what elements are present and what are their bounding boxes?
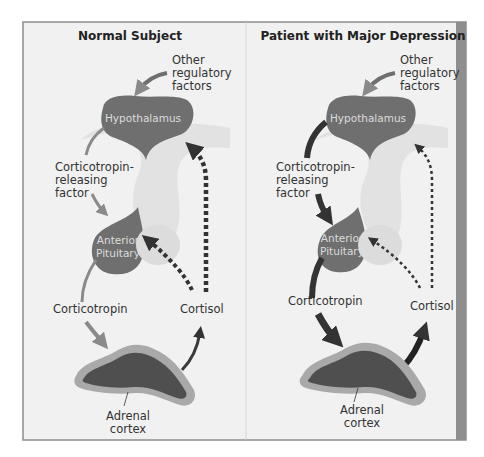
left-cortisol-label: Cortisol xyxy=(180,302,224,316)
left-hypothalamus-label: Hypothalamus xyxy=(105,112,181,124)
right-adrenal-label-1: Adrenal xyxy=(340,403,384,417)
right-crf-label-1: Corticotropin- xyxy=(276,160,355,174)
right-edge-strip xyxy=(456,22,466,440)
hpa-axis-diagram: Normal Subject Hypothalamus Anterior Pit… xyxy=(0,0,484,457)
right-crf-label-2: releasing xyxy=(276,173,329,187)
right-corticotropin-label: Corticotropin xyxy=(288,294,363,308)
left-other-factors-1: Other xyxy=(172,53,205,67)
right-pituitary-label-1: Anterior xyxy=(321,232,364,244)
right-panel-title: Patient with Major Depression xyxy=(260,29,465,43)
right-hypothalamus-label: Hypothalamus xyxy=(330,112,406,124)
right-cortisol-label: Cortisol xyxy=(410,299,454,313)
left-posterior-lobe xyxy=(136,225,180,265)
left-pituitary-label-1: Anterior xyxy=(97,234,140,246)
left-other-factors-3: factors xyxy=(172,79,212,93)
right-other-factors-1: Other xyxy=(400,53,433,67)
left-pituitary-label-2: Pituitary xyxy=(96,247,140,259)
left-crf-label-1: Corticotropin- xyxy=(55,160,134,174)
left-other-factors-2: regulatory xyxy=(172,66,232,80)
left-adrenal-label-2: cortex xyxy=(110,422,146,436)
left-adrenal-label-1: Adrenal xyxy=(106,409,150,423)
left-crf-label-2: releasing xyxy=(55,173,108,187)
left-corticotropin-label: Corticotropin xyxy=(53,302,128,316)
right-adrenal-label-2: cortex xyxy=(344,416,380,430)
left-panel-title: Normal Subject xyxy=(78,29,182,43)
right-crf-label-3: factor xyxy=(276,186,310,200)
right-pituitary-label-2: Pituitary xyxy=(320,245,364,257)
right-other-factors-2: regulatory xyxy=(400,66,460,80)
left-crf-label-3: factor xyxy=(55,186,89,200)
right-other-factors-3: factors xyxy=(400,79,440,93)
